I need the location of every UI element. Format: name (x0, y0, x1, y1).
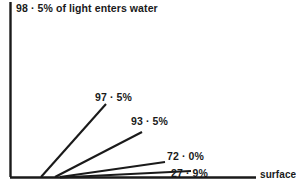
diagram-canvas (0, 0, 296, 189)
ray-label-27-9: 27 · 9% (171, 168, 208, 179)
diagram-title: 98 · 5% of light enters water (16, 3, 158, 14)
light-transmission-diagram: 98 · 5% of light enters water 97 · 5% 93… (0, 0, 296, 189)
incident-ray-97-5 (41, 104, 106, 177)
ray-label-97-5: 97 · 5% (95, 92, 132, 103)
ray-label-93-5: 93 · 5% (131, 116, 168, 127)
incident-ray-93-5 (55, 132, 142, 177)
surface-axis-label: surface (260, 170, 296, 180)
ray-label-72-0: 72 · 0% (167, 151, 204, 162)
